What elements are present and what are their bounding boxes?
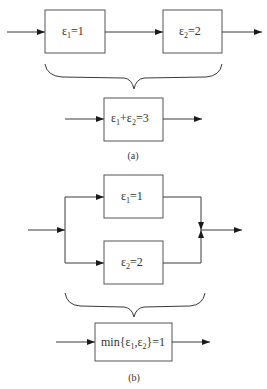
parallel-diagram: ε1=1 ε2=2 min{ε1,ε2}=1 (b) — [28, 175, 242, 384]
split-line-b — [65, 197, 104, 263]
label-epsilon1-b: ε1=1 — [121, 189, 143, 205]
merge-line-top — [163, 197, 201, 230]
series-diagram: ε1=1 ε2=2 ε1+ε2=3 (a) — [7, 10, 262, 162]
curly-brace-b — [65, 293, 205, 317]
label-epsilon1-a: ε1=1 — [62, 24, 84, 40]
curly-brace-a — [45, 64, 222, 89]
arrow-head-icon — [57, 227, 65, 233]
arrow-head-icon — [194, 116, 202, 122]
arrow-head-icon — [87, 339, 95, 345]
arrow-head-icon — [198, 222, 204, 230]
diagram-canvas: ε1=1 ε2=2 ε1+ε2=3 (a) ε1=1 ε2=2 — [0, 0, 267, 389]
label-epsilon2-a: ε2=2 — [179, 24, 201, 40]
arrow-head-icon — [96, 260, 104, 266]
arrow-head-icon — [37, 29, 45, 35]
caption-b: (b) — [128, 372, 140, 384]
arrow-head-icon — [234, 227, 242, 233]
arrow-head-icon — [254, 29, 262, 35]
arrow-head-icon — [96, 194, 104, 200]
arrow-head-icon — [198, 230, 204, 238]
arrow-head-icon — [155, 29, 163, 35]
arrow-head-icon — [202, 339, 210, 345]
merge-line-bottom — [163, 230, 201, 263]
label-epsilon2-b: ε2=2 — [121, 255, 143, 271]
arrow-head-icon — [96, 116, 104, 122]
caption-a: (a) — [127, 150, 138, 162]
